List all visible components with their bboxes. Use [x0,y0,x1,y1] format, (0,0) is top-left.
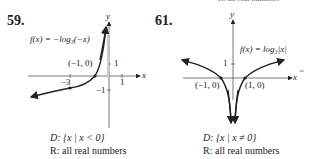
graph-61-curve-right [235,60,284,123]
graph-61-curve-left [182,60,231,123]
point-label-left: (−1, 0) [195,80,220,90]
domain-text: D: {x | x ≠ 0} [203,132,256,143]
domain-text: D: {x | x < 0} [50,132,104,143]
y-axis-label: y [230,9,234,19]
problem-number: 59. [7,13,25,29]
tick-x-pos: 1 [120,77,125,87]
function-label: f(x) = −log₃(−x) [30,34,90,44]
x-axis-label: x [293,72,297,82]
tick-y-pos: 1 [114,58,119,68]
tick-y-pos: 1 [223,58,228,68]
x-axis-label: x [142,70,146,80]
function-label: f(x) = log₃|x| [240,44,287,54]
point-label: (−1, 0) [68,58,93,68]
range-text: R: all real numbers [203,145,279,156]
range-text: R: all real numbers [50,145,126,156]
point-label-right: (1, 0) [245,80,265,90]
tick-y-neg: −1 [96,85,106,95]
y-axis-label: y [106,11,110,21]
margin-mark: = [299,66,304,76]
problem-number: 61. [155,13,173,29]
tick-x-neg: −3 [61,77,71,87]
